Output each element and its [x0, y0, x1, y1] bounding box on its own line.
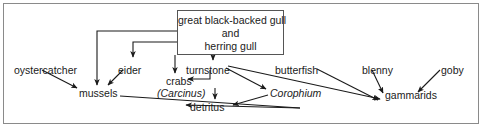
- food-web-figure: great black-backed gull and herring gull…: [0, 0, 484, 129]
- predator-box: great black-backed gull and herring gull: [177, 10, 284, 55]
- node-turnstone: turnstone: [186, 65, 230, 76]
- node-butterfish: butterfish: [275, 65, 318, 76]
- predator-box-line-2: and: [178, 27, 283, 40]
- node-detritus: detritus: [190, 102, 224, 113]
- arrow-gulls-to-eider: [133, 42, 177, 57]
- arrow-turnstone-to-corophium: [226, 68, 266, 89]
- node-blenny: blenny: [362, 65, 393, 76]
- node-gammarids: gammarids: [385, 90, 437, 101]
- node-carcinus: (Carcinus): [157, 88, 205, 99]
- node-crabs: crabs: [166, 76, 192, 87]
- node-eider: eider: [118, 65, 141, 76]
- predator-box-line-3: herring gull: [178, 40, 283, 53]
- arrow-gulls-to-mussels: [97, 31, 177, 85]
- node-goby: goby: [441, 65, 464, 76]
- node-oystercatcher: oystercatcher: [14, 65, 77, 76]
- node-mussels: mussels: [79, 88, 118, 99]
- node-corophium: Corophium: [270, 88, 321, 99]
- predator-box-line-1: great black-backed gull: [178, 14, 283, 27]
